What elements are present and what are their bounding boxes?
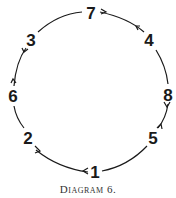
node-7: 7 xyxy=(86,5,95,22)
edge-6-3 xyxy=(14,48,26,86)
edge-3-7 xyxy=(38,12,82,32)
edge-5-1 xyxy=(102,146,147,171)
node-3: 3 xyxy=(26,32,35,49)
edge-1-2 xyxy=(36,150,88,172)
edge-8-5 xyxy=(158,104,168,128)
node-2: 2 xyxy=(23,130,32,147)
node-4: 4 xyxy=(144,32,153,49)
edge-2-6 xyxy=(14,106,24,128)
node-5: 5 xyxy=(148,130,157,147)
diagram-caption: Diagram 6. xyxy=(0,183,176,195)
edge-4-8 xyxy=(156,50,168,84)
node-8: 8 xyxy=(163,87,172,104)
arrow-icon xyxy=(83,168,88,174)
node-1: 1 xyxy=(90,164,99,181)
node-6: 6 xyxy=(8,88,17,105)
